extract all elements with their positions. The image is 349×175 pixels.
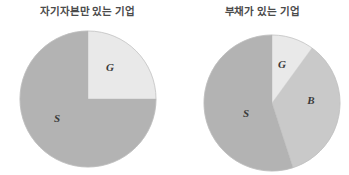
chart-panel-equity: 자기자본만 있는 기업 G S <box>0 0 175 175</box>
pie-equity: G S <box>0 0 175 175</box>
pie-equity-svg <box>0 0 175 175</box>
pie-slice-g <box>88 31 156 99</box>
pie-chart-figure: 자기자본만 있는 기업 G S 부채가 있는 기업 G B S <box>0 0 349 175</box>
pie-debt: G B S <box>175 0 349 175</box>
chart-panel-debt: 부채가 있는 기업 G B S <box>175 0 349 175</box>
pie-debt-svg <box>175 0 349 175</box>
